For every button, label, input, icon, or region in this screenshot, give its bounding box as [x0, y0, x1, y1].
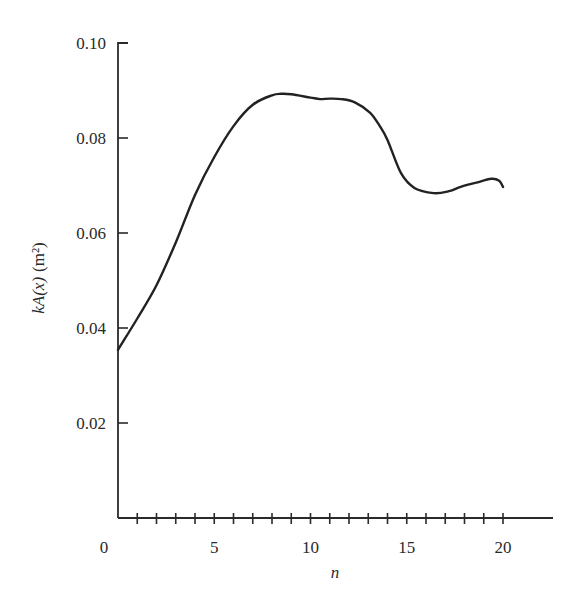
x-tick-label: 5: [210, 538, 219, 557]
x-tick-label: 0: [100, 538, 109, 557]
y-axis-title-symbol: kA(x): [29, 277, 48, 314]
x-axis-title: n: [331, 563, 340, 582]
data-line-kA: [118, 94, 503, 350]
y-tick-label: 0.02: [76, 414, 106, 433]
y-tick-label: 0.06: [76, 224, 106, 243]
line-chart: 0.020.040.060.080.10 05101520 n kA(x)(m²…: [0, 0, 587, 596]
y-tick-label: 0.10: [76, 34, 106, 53]
y-tick-label: 0.08: [76, 129, 106, 148]
y-tick-label: 0.04: [76, 319, 106, 338]
x-tick-label: 15: [398, 538, 415, 557]
x-axis: 05101520: [100, 513, 553, 557]
y-axis-title-unit: (m²): [29, 242, 48, 272]
y-axis: 0.020.040.060.080.10: [76, 34, 128, 518]
x-tick-label: 10: [302, 538, 319, 557]
x-ticks: 05101520: [100, 513, 512, 557]
x-tick-label: 20: [495, 538, 512, 557]
y-axis-title: kA(x)(m²): [29, 242, 48, 313]
y-axis-line: [118, 43, 128, 518]
y-ticks: 0.020.040.060.080.10: [76, 34, 128, 433]
